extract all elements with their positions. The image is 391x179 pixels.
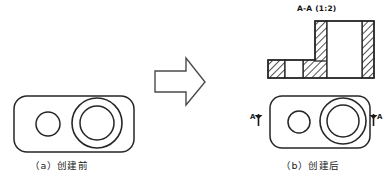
transform-arrow-icon xyxy=(155,58,205,105)
section-boss-left-wall xyxy=(315,21,327,61)
section-view-title: A-A (1:2) xyxy=(297,4,336,13)
big-hole-inner-a xyxy=(80,106,114,140)
caption-panel-a: （a）创建前 xyxy=(30,158,88,172)
caption-panel-b: （b）创建后 xyxy=(281,158,339,172)
figure-canvas: A-A (1:2) A A （a）创建前 （b）创建后 xyxy=(0,0,391,179)
section-mark-left-arrowhead xyxy=(255,115,263,119)
small-hole-a xyxy=(36,112,60,136)
drawing-svg xyxy=(0,0,391,179)
section-view-aa xyxy=(268,21,374,78)
section-base-mid-wall xyxy=(303,60,327,78)
section-big-hole-void xyxy=(327,21,362,78)
section-mark-label-left: A xyxy=(250,113,255,121)
section-base-left-wall xyxy=(268,60,285,78)
small-hole-b xyxy=(288,111,310,133)
panel-b-part xyxy=(270,96,370,148)
big-hole-inner-b xyxy=(327,105,359,137)
section-mark-label-right: A xyxy=(377,113,382,121)
section-boss-right-wall xyxy=(362,21,374,78)
section-mark-left xyxy=(255,114,263,126)
section-small-hole-void xyxy=(285,60,303,78)
panel-a-part xyxy=(14,96,134,152)
